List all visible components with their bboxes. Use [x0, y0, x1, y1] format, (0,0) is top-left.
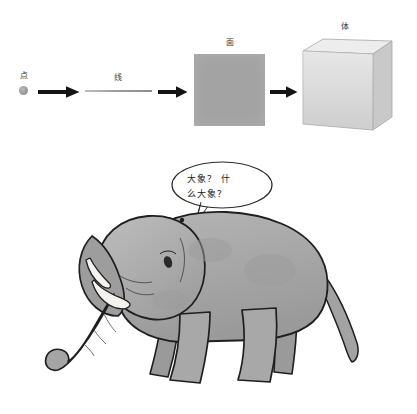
elephant-trunk-line-1: [104, 314, 116, 332]
stage-label-plane: 面: [218, 39, 242, 47]
point-shape: [19, 86, 28, 95]
solid-shape: [301, 38, 393, 132]
stage-label-solid: 体: [333, 23, 357, 31]
elephant-body-shade-1: [188, 238, 232, 262]
arrow-right-icon-1: [38, 85, 80, 99]
arrow-right-icon-3: [270, 85, 298, 99]
progression-diagram: 点 线 面 体: [0, 0, 417, 150]
plane-shape: [194, 54, 265, 126]
elephant-body-shade-2: [244, 254, 296, 286]
page-canvas: 点 线 面 体: [0, 0, 417, 414]
line-shape: [85, 90, 152, 92]
stage-label-line: 线: [106, 74, 130, 82]
elephant-head-tuft: [180, 218, 184, 222]
elephant-illustration: [30, 190, 390, 402]
stage-label-point: 点: [12, 72, 36, 80]
arrow-right-icon-2: [158, 85, 188, 99]
elephant-body-shade-3: [152, 290, 188, 310]
elephant-trunk-line-3: [84, 344, 94, 356]
elephant-hind-leg-near: [238, 308, 277, 382]
elephant-trunk-line-2: [94, 330, 106, 344]
